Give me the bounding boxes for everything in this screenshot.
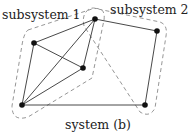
node-middle bbox=[80, 65, 86, 71]
node-bottom-right bbox=[142, 102, 148, 108]
node-left bbox=[31, 40, 37, 46]
subsystem-1-label: subsystem 1 bbox=[2, 7, 81, 22]
node-right-top bbox=[154, 28, 160, 34]
node-bottom-left bbox=[19, 102, 25, 108]
node-top bbox=[92, 16, 98, 22]
edges bbox=[22, 19, 157, 105]
system-diagram: subsystem 1 subsystem 2 system (b) bbox=[0, 0, 189, 134]
subsystem-2-label: subsystem 2 bbox=[110, 2, 189, 17]
caption: system (b) bbox=[65, 117, 131, 132]
